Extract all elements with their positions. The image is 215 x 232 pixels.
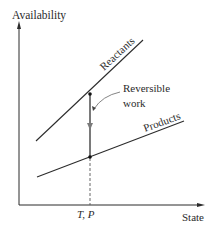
annotation-leader	[94, 92, 120, 109]
annotation-line2: work	[123, 97, 146, 109]
reactants-point	[88, 92, 92, 96]
products-line	[37, 121, 184, 177]
reactants-label: Reactants	[97, 35, 136, 73]
annotation-line1: Reversible	[123, 82, 170, 94]
y-axis-arrow-icon	[17, 21, 21, 29]
products-point	[88, 155, 92, 159]
down-arrow-icon	[87, 123, 93, 130]
x-axis-label: State	[182, 211, 204, 223]
products-label: Products	[142, 109, 182, 133]
x-axis-arrow-icon	[197, 203, 205, 207]
availability-state-diagram: Availability State T, P Reactants Produc…	[0, 0, 215, 232]
x-marker-label: T, P	[77, 208, 95, 220]
y-axis-label: Availability	[12, 9, 66, 22]
